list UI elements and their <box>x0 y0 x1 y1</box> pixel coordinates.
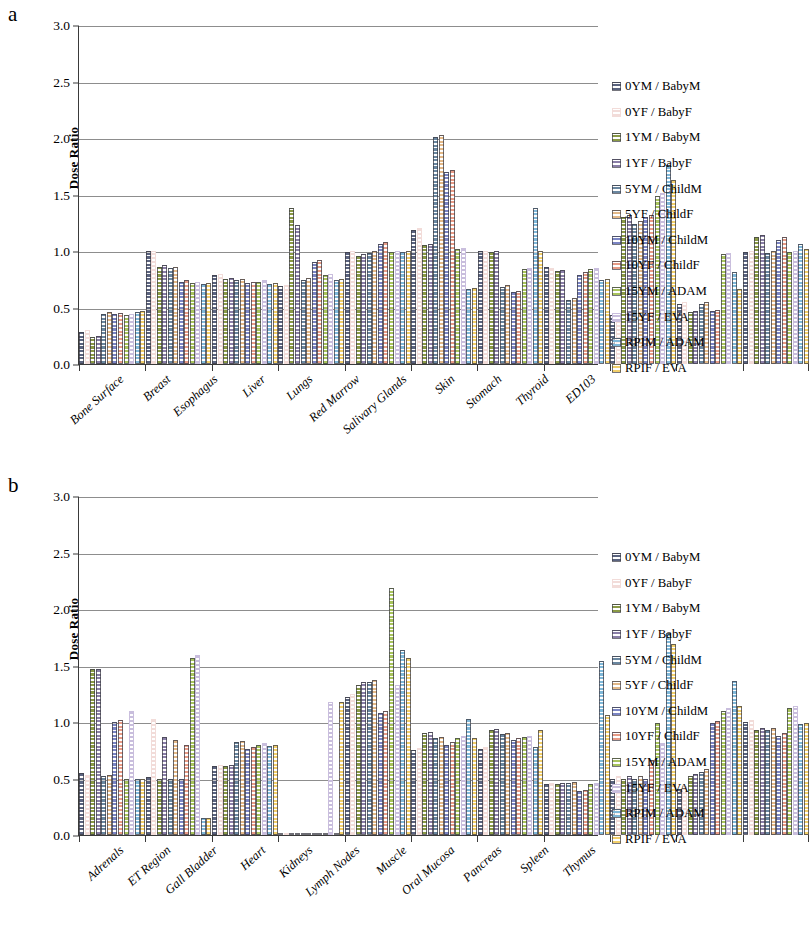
legend-item[interactable]: RPIM / ADAM <box>612 330 762 356</box>
legend-item[interactable]: 5YF / ChildF <box>612 673 762 699</box>
bar <box>206 818 211 835</box>
x-axis-label: Heart <box>237 843 269 874</box>
bar <box>129 314 134 364</box>
bar <box>245 283 250 364</box>
bar <box>406 251 411 364</box>
legend-swatch-icon <box>612 338 621 347</box>
x-tick-mark <box>212 835 213 842</box>
bar <box>787 708 792 835</box>
legend-item[interactable]: 15YF / EVA <box>612 775 762 801</box>
x-axis-labels-b: AdrenalsET RegionGall BladderHeartKidney… <box>78 843 598 933</box>
legend-item[interactable]: 15YF / EVA <box>612 304 762 330</box>
legend-item[interactable]: 15YM / ADAM <box>612 750 762 776</box>
bar <box>173 267 178 364</box>
bar <box>605 279 610 364</box>
bar <box>278 286 283 364</box>
legend-item[interactable]: 5YM / ChildM <box>612 176 762 202</box>
bar <box>328 274 333 364</box>
bar <box>306 278 311 364</box>
bar <box>195 282 200 364</box>
legend-label: 0YF / BabyF <box>625 105 692 120</box>
x-axis-label: Thymus <box>561 843 600 880</box>
bar <box>522 269 527 364</box>
legend-item[interactable]: 1YM / BabyM <box>612 596 762 622</box>
legend-item[interactable]: 10YM / ChildM <box>612 228 762 254</box>
bar <box>527 736 532 835</box>
legend-label: 1YF / BabyF <box>625 156 692 171</box>
bar <box>356 256 361 364</box>
y-tick-label: 2.0 <box>53 602 79 618</box>
legend-item[interactable]: 1YF / BabyF <box>612 151 762 177</box>
bar <box>179 282 184 364</box>
legend-item[interactable]: 1YF / BabyF <box>612 622 762 648</box>
x-axis-label: Stomach <box>463 372 505 412</box>
bar <box>411 750 416 835</box>
legend-label: 15YM / ADAM <box>625 284 707 299</box>
bar <box>218 274 223 364</box>
bar <box>140 311 145 364</box>
legend-item[interactable]: RPIF / EVA <box>612 827 762 853</box>
bar <box>417 748 422 835</box>
legend-item[interactable]: 10YM / ChildM <box>612 699 762 725</box>
bar <box>356 685 361 835</box>
x-tick-mark <box>345 835 346 842</box>
bar-group <box>212 497 278 835</box>
bar <box>428 732 433 835</box>
x-tick-mark <box>145 835 146 842</box>
bar <box>312 262 317 364</box>
legend-item[interactable]: RPIF / EVA <box>612 356 762 382</box>
bar <box>566 783 571 835</box>
bar <box>135 779 140 836</box>
legend-item[interactable]: 15YM / ADAM <box>612 279 762 305</box>
bar <box>804 249 809 364</box>
bar <box>262 280 267 364</box>
x-axis-label: Muscle <box>374 843 411 878</box>
bar <box>212 275 217 364</box>
plot-area-b: 0.00.51.01.52.02.53.0 <box>78 497 598 836</box>
bar <box>378 713 383 835</box>
legend-item[interactable]: 0YF / BabyF <box>612 100 762 126</box>
legend-swatch-icon <box>612 579 621 588</box>
legend-item[interactable]: 5YF / ChildF <box>612 202 762 228</box>
legend-item[interactable]: 10YF / ChildF <box>612 724 762 750</box>
bar <box>317 260 322 364</box>
x-tick-mark <box>477 364 478 371</box>
x-axis-label: Adrenals <box>84 843 127 884</box>
bar <box>350 694 355 835</box>
bar <box>312 833 317 835</box>
legend-b: 0YM / BabyM0YF / BabyF1YM / BabyM1YF / B… <box>612 545 762 852</box>
bar <box>450 170 455 364</box>
legend-label: 15YF / EVA <box>625 310 689 325</box>
legend-swatch-icon <box>612 809 621 818</box>
legend-item[interactable]: 1YM / BabyM <box>612 125 762 151</box>
bar <box>439 737 444 835</box>
legend-label: 15YF / EVA <box>625 781 689 796</box>
bar <box>85 775 90 835</box>
bar <box>256 745 261 835</box>
bar <box>555 271 560 364</box>
bar <box>218 765 223 835</box>
bar <box>146 777 151 835</box>
bar <box>101 314 106 364</box>
y-tick-label: 1.5 <box>53 188 79 204</box>
legend-swatch-icon <box>612 758 621 767</box>
bar <box>782 733 787 835</box>
y-tick-label: 2.5 <box>53 75 79 91</box>
legend-item[interactable]: 0YM / BabyM <box>612 74 762 100</box>
legend-item[interactable]: 0YF / BabyF <box>612 571 762 597</box>
x-axis-label: ED103 <box>563 372 599 407</box>
bar <box>118 720 123 835</box>
bar <box>511 740 516 835</box>
bar <box>599 661 604 835</box>
bar <box>107 775 112 835</box>
bar <box>549 783 554 835</box>
legend-item[interactable]: RPIM / ADAM <box>612 801 762 827</box>
legend-item[interactable]: 10YF / ChildF <box>612 253 762 279</box>
legend-item[interactable]: 0YM / BabyM <box>612 545 762 571</box>
bar <box>201 818 206 835</box>
bar <box>350 251 355 364</box>
legend-item[interactable]: 5YM / ChildM <box>612 647 762 673</box>
y-tick-label: 0.5 <box>53 772 79 788</box>
bar <box>472 288 477 364</box>
legend-label: 5YF / ChildF <box>625 678 693 693</box>
